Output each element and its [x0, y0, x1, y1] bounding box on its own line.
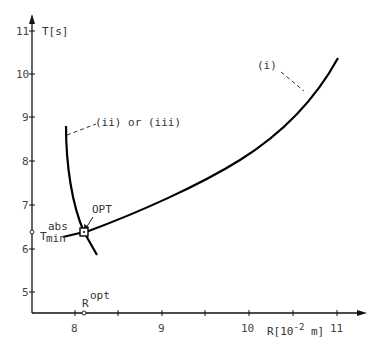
y-tick-label-9: 9 — [22, 111, 29, 124]
curve-ii-iii-label: (ii) or (iii) — [95, 116, 181, 129]
ropt-label: R — [82, 297, 89, 310]
y-axis-arrow-icon — [29, 14, 35, 24]
x-axis-arrow-icon — [357, 310, 367, 316]
y-tick-label-7: 7 — [22, 199, 29, 212]
y-axis-title: T[s] — [42, 25, 69, 38]
leader-curve-i — [281, 72, 304, 91]
y-tick-label-11: 11 — [16, 25, 29, 38]
opt-label: OPT — [92, 203, 112, 216]
curve-i-label: (i) — [257, 59, 277, 72]
chart: 11 10 9 8 7 6 5 8 9 10 11 T[s] R[10-2 m]… — [0, 0, 382, 355]
x-tick-label-9: 9 — [158, 322, 165, 335]
x-tick-label-11: 11 — [330, 322, 343, 335]
y-tick-label-10: 10 — [16, 68, 29, 81]
curve-i — [86, 58, 338, 232]
opt-point-dot — [83, 231, 85, 233]
y-tick-label-5: 5 — [22, 286, 29, 299]
tmin-abs-marker — [30, 230, 34, 234]
ropt-sup: opt — [90, 289, 110, 302]
y-tick-label-8: 8 — [22, 155, 29, 168]
leader-curve-ii-iii — [67, 124, 96, 135]
ropt-marker — [82, 311, 86, 315]
tmin-abs-sub: min — [46, 232, 66, 245]
x-tick-label-8: 8 — [71, 322, 78, 335]
x-tick-label-10: 10 — [241, 322, 254, 335]
x-axis-title: R[10-2 m] — [267, 322, 324, 338]
y-tick-label-6: 6 — [22, 243, 29, 256]
